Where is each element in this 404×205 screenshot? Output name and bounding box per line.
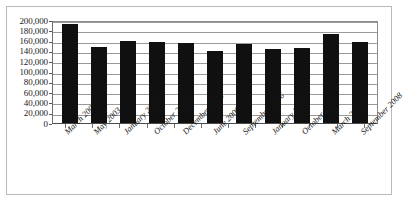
y-axis-tick-label: 100,000 <box>0 68 48 77</box>
y-axis-tick-label: 200,000 <box>0 17 48 26</box>
y-axis-tick-label: 80,000 <box>0 78 48 87</box>
bar <box>62 24 78 123</box>
y-axis-tick-label: 60,000 <box>0 89 48 98</box>
x-axis-labels: March 2003May 2003January 2005October 20… <box>52 124 378 200</box>
y-axis-tick-label: 120,000 <box>0 58 48 67</box>
y-axis-tick-label: 160,000 <box>0 37 48 46</box>
y-axis-tick-label: 180,000 <box>0 27 48 36</box>
y-axis-tick-label: 40,000 <box>0 99 48 108</box>
bar <box>120 41 136 123</box>
y-axis-tick-label: 20,000 <box>0 109 48 118</box>
y-axis-tick-label: 140,000 <box>0 47 48 56</box>
y-axis-labels: 020,00040,00060,00080,000100,000120,0001… <box>0 0 48 205</box>
y-axis-tick-label: 0 <box>0 120 48 129</box>
